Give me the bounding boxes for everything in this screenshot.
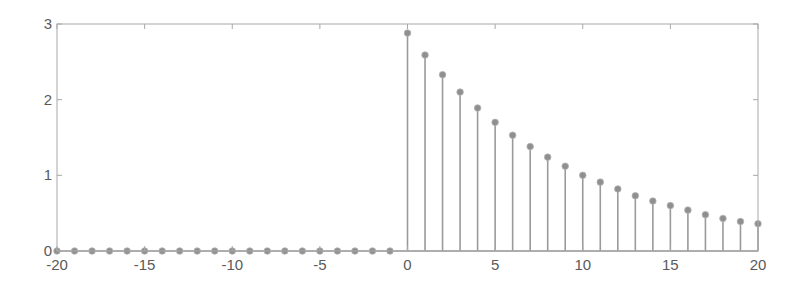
x-tick-label: 15 — [662, 256, 679, 273]
y-tick-label: 1 — [44, 166, 52, 183]
stem-marker — [685, 207, 692, 214]
stem-marker — [562, 163, 569, 170]
stem-marker — [492, 119, 499, 126]
stem-marker — [650, 198, 657, 205]
y-tick-label: 2 — [44, 91, 52, 108]
stem-marker — [422, 52, 429, 59]
x-tick-label: 20 — [750, 256, 767, 273]
stem-marker — [632, 192, 639, 199]
stem-marker — [667, 202, 674, 209]
x-tick-label: -10 — [221, 256, 243, 273]
x-tick-label: -5 — [313, 256, 326, 273]
stem-marker — [720, 215, 727, 222]
stem-series — [54, 30, 762, 255]
x-tick-label: 10 — [574, 256, 591, 273]
x-tick-label: 5 — [491, 256, 499, 273]
stem-marker — [474, 105, 481, 112]
stem-marker — [509, 132, 516, 139]
x-axis-ticks: -20-15-10-505101520 — [46, 24, 766, 273]
stem-marker — [579, 172, 586, 179]
stem-marker — [702, 211, 709, 218]
stem-marker — [544, 154, 551, 161]
stem-marker — [439, 71, 446, 78]
stem-marker — [404, 30, 411, 37]
stem-chart: -20-15-10-505101520 0123 — [0, 0, 803, 290]
y-tick-label: 0 — [44, 242, 52, 259]
stem-marker — [597, 179, 604, 186]
y-axis-ticks: 0123 — [44, 15, 758, 259]
x-tick-label: -15 — [134, 256, 156, 273]
stem-marker — [615, 186, 622, 193]
y-tick-label: 3 — [44, 15, 52, 32]
stem-marker — [527, 143, 534, 150]
x-tick-label: 0 — [403, 256, 411, 273]
stem-marker — [457, 89, 464, 96]
stem-marker — [737, 218, 744, 225]
